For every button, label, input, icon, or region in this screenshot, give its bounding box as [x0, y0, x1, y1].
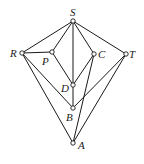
- node-b: [71, 106, 75, 110]
- edge-s-r: [22, 21, 73, 53]
- node-a: [71, 141, 75, 145]
- node-label-t: T: [129, 48, 136, 60]
- edge-t-a: [73, 54, 126, 143]
- nodes-group: [20, 19, 128, 145]
- node-label-a: A: [77, 139, 85, 151]
- node-s: [71, 19, 75, 23]
- node-r: [20, 51, 24, 55]
- edge-c-a: [73, 54, 94, 143]
- node-label-r: R: [9, 47, 17, 59]
- node-p: [50, 50, 54, 54]
- node-t: [124, 52, 128, 56]
- node-label-c: C: [98, 48, 106, 60]
- graph-diagram: SRPCTDBA: [0, 0, 144, 164]
- node-label-p: P: [41, 55, 49, 67]
- edge-s-c: [73, 21, 94, 54]
- edge-p-d: [52, 52, 73, 85]
- edge-r-p: [22, 52, 52, 53]
- node-d: [71, 83, 75, 87]
- node-label-d: D: [60, 82, 69, 94]
- node-c: [92, 52, 96, 56]
- node-label-b: B: [66, 111, 73, 123]
- node-label-s: S: [70, 6, 76, 18]
- edge-t-b: [73, 54, 126, 108]
- edge-s-p: [52, 21, 73, 52]
- edges-group: [22, 21, 126, 143]
